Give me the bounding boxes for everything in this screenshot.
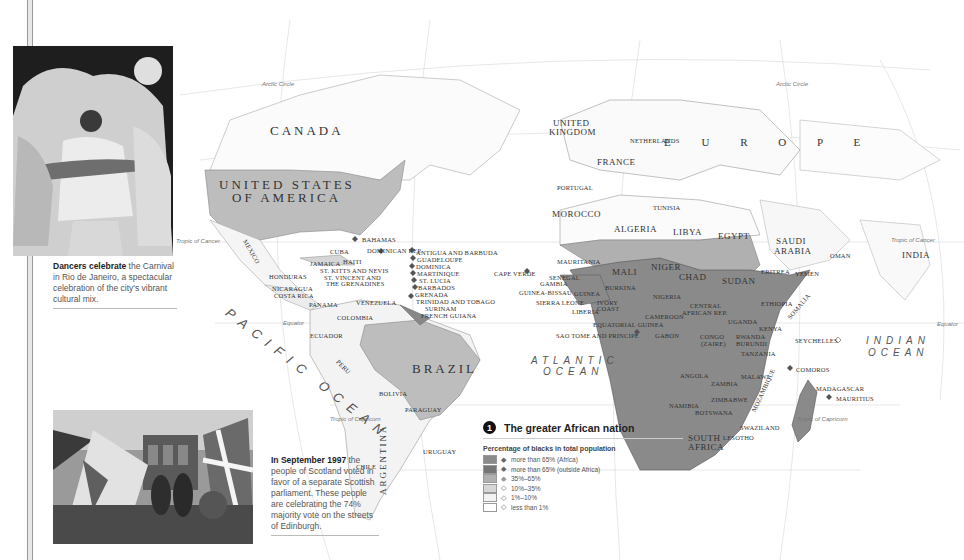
tropic-capricorn-label-east: Tropic of Capricorn xyxy=(797,416,848,422)
saudi-arabia-label: SAUDI xyxy=(776,236,806,246)
chad-label: CHAD xyxy=(679,272,707,282)
scotland-caption-bold: In September 1997 xyxy=(271,455,346,465)
legend-row: ◇ 1%–10% xyxy=(483,493,683,502)
indian-ocean-label: INDIAN xyxy=(866,335,930,346)
map-legend: 1 The greater African nation Percentage … xyxy=(483,421,683,512)
france-label: FRANCE xyxy=(597,157,636,167)
jamaica-label: JAMAICA xyxy=(310,260,340,267)
paraguay-label: PARAGUAY xyxy=(405,406,442,413)
scotland-caption: In September 1997 the people of Scotland… xyxy=(271,455,379,536)
legend-row: ◆ 35%–65% xyxy=(483,474,683,483)
legend-row: ◇ 10%–35% xyxy=(483,484,683,493)
congo-zaire-label-2: (ZAIRE) xyxy=(701,340,726,347)
mauritania-label: MAURITANIA xyxy=(557,258,600,265)
zimbabwe-label: ZIMBABWE xyxy=(711,396,748,403)
st-vincent-label-2: THE GRENADINES xyxy=(326,280,385,287)
atlantic-ocean-label: ATLANTIC xyxy=(531,355,619,366)
legend-swatch xyxy=(483,493,497,502)
panama-label: PANAMA xyxy=(309,301,338,308)
caption-rule xyxy=(53,308,177,309)
filled-diamond-icon: ◆ xyxy=(501,475,511,483)
barbados-label: BARBADOS xyxy=(418,284,455,291)
egypt-label: EGYPT xyxy=(718,231,750,241)
gambia-label: GAMBIA xyxy=(540,280,568,287)
legend-title: 1 The greater African nation xyxy=(483,421,683,439)
colombia-label: COLOMBIA xyxy=(337,314,373,321)
legend-label: 1%–10% xyxy=(511,494,537,501)
french-guiana-label: FRENCH GUIANA xyxy=(421,312,477,319)
legend-label: less than 1% xyxy=(511,504,548,511)
sudan-label: SUDAN xyxy=(722,276,756,286)
cape-verde-label: CAPE VERDE xyxy=(494,270,536,277)
madagascar-shape xyxy=(792,380,817,442)
mauritius-label: MAURITIUS xyxy=(836,395,874,402)
rio-carnival-photo xyxy=(13,46,173,256)
bolivia-label: BOLIVIA xyxy=(379,390,407,397)
canada-label: CANADA xyxy=(270,123,344,139)
mali-label: MALI xyxy=(612,267,637,277)
oman-label: OMAN xyxy=(830,252,851,259)
martinique-label: MARTINIQUE xyxy=(417,270,460,277)
legend-swatch xyxy=(483,455,497,464)
haiti-label: HAITI xyxy=(343,258,362,265)
legend-label: 35%–65% xyxy=(511,475,541,482)
kenya-label: KENYA xyxy=(759,325,782,332)
tanzania-label: TANZANIA xyxy=(741,350,776,357)
arctic-circle-label: Arctic Circle xyxy=(262,81,294,87)
costa-rica-label: COSTA RICA xyxy=(274,292,314,299)
ecuador-label: ECUADOR xyxy=(310,332,343,339)
hollow-diamond-icon: ◇ xyxy=(501,494,511,502)
india-label: INDIA xyxy=(902,250,930,260)
antigua-label: ANTIGUA AND BARBUDA xyxy=(416,249,498,256)
usa-label-2: OF AMERICA xyxy=(232,190,341,206)
ethiopia-label: ETHIOPIA xyxy=(761,300,793,307)
uk-label-2: KINGDOM xyxy=(549,127,596,137)
yemen-label: YEMEN xyxy=(795,270,819,277)
surinam-label: SURINAM xyxy=(425,305,456,312)
guinea-bissau-label: GUINEA-BISSAU xyxy=(519,289,572,296)
cameroon-label: CAMEROON xyxy=(645,313,684,320)
tunisia-label: TUNISIA xyxy=(653,204,680,211)
legend-row: ◇ less than 1% xyxy=(483,503,683,512)
legend-label: more than 65% (Africa) xyxy=(511,456,578,463)
lesotho-label: LESOTHO xyxy=(723,434,754,441)
legend-swatch xyxy=(483,503,497,512)
madagascar-label: MADAGASCAR xyxy=(816,385,864,392)
ivory-coast-label-2: COAST xyxy=(597,305,619,312)
cuba-label: CUBA xyxy=(330,248,349,255)
hollow-diamond-icon: ◇ xyxy=(501,484,511,492)
equator-label-east: Equator xyxy=(937,321,958,327)
botswana-label: BOTSWANA xyxy=(695,409,733,416)
angola-label: ANGOLA xyxy=(680,372,709,379)
swaziland-label: SWAZILAND xyxy=(740,424,780,431)
legend-row: ◆ more than 65% (Africa) xyxy=(483,455,683,464)
algeria-label: ALGERIA xyxy=(614,224,657,234)
burundi-label: BURUNDI xyxy=(736,340,767,347)
caption-rule xyxy=(271,535,379,536)
scotland-caption-text: the people of Scotland voted in favor of… xyxy=(271,455,374,531)
saudi-arabia-label-2: ARABIA xyxy=(774,246,812,256)
uruguay-label: URUGUAY xyxy=(423,448,456,455)
rio-caption-bold: Dancers celebrate xyxy=(53,261,126,271)
argentina-label: ARGENTINA xyxy=(378,425,388,496)
gabon-label: GABON xyxy=(655,332,679,339)
burkina-label: BURKINA xyxy=(605,284,636,291)
venezuela-label: VENEZUELA xyxy=(356,299,396,306)
namibia-label: NAMIBIA xyxy=(669,402,699,409)
dominica-label: DOMINICA xyxy=(416,263,451,270)
sao-tome-label: SAO TOME AND PRINCIPE xyxy=(556,332,639,339)
st-lucia-label: ST. LUCIA xyxy=(419,277,451,284)
honduras-label: HONDURAS xyxy=(269,273,307,280)
equator-label: Equator xyxy=(283,320,304,326)
nicaragua-label: NICARAGUA xyxy=(272,285,313,292)
legend-label: more than 65% (outside Africa) xyxy=(511,466,600,473)
legend-row: ◆ more than 65% (outside Africa) xyxy=(483,465,683,474)
legend-number-badge: 1 xyxy=(483,421,496,434)
car-label: CENTRAL xyxy=(690,302,721,309)
nigeria-label: NIGERIA xyxy=(653,293,681,300)
arctic-circle-label-east: Arctic Circle xyxy=(776,81,808,87)
zambia-label: ZAMBIA xyxy=(711,380,738,387)
rio-caption: Dancers celebrate the Carnival in Rio de… xyxy=(53,261,177,309)
sierra-leone-label: SIERRA LEONE xyxy=(536,299,584,306)
guinea-label: GUINEA xyxy=(574,290,600,297)
